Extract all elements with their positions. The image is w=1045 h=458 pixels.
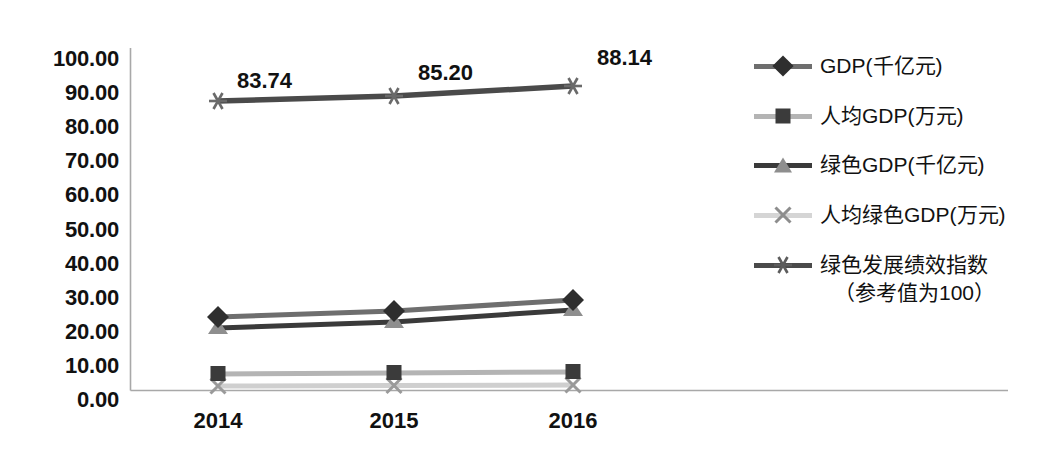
- triangle-marker-icon: [774, 158, 792, 173]
- legend-label-line1: 绿色发展绩效指数: [820, 253, 988, 276]
- square-marker-icon: [776, 108, 791, 123]
- diamond-marker-icon: [772, 55, 793, 76]
- data-label-index-2016: 88.14: [597, 47, 652, 69]
- data-label-index-2014: 83.74: [237, 70, 292, 92]
- legend-key-green-development-index: [752, 252, 814, 278]
- x-axis-tick-2015: 2015: [370, 410, 419, 432]
- legend-label-line2: （参考值为100）: [820, 279, 995, 307]
- legend-item-per-capita-green-gdp[interactable]: 人均绿色GDP(万元): [752, 201, 1037, 229]
- legend-key-per-capita-gdp: [752, 103, 814, 129]
- legend-item-green-gdp[interactable]: 绿色GDP(千亿元): [752, 151, 1037, 179]
- legend-item-gdp[interactable]: GDP(千亿元): [752, 52, 1037, 80]
- chart-legend: GDP(千亿元) 人均GDP(万元) 绿色GDP(千亿元): [752, 52, 1037, 328]
- x-marker-icon: [772, 204, 794, 226]
- series-line-per-capita-gdp: [211, 364, 581, 381]
- asterisk-marker-icon: [771, 253, 795, 277]
- x-axis-tick-2016: 2016: [549, 410, 598, 432]
- chart-container: 100.00 90.00 80.00 70.00 60.00 50.00 40.…: [0, 0, 1045, 458]
- legend-label-per-capita-gdp: 人均GDP(万元): [820, 102, 964, 130]
- legend-item-per-capita-gdp[interactable]: 人均GDP(万元): [752, 102, 1037, 130]
- x-axis-tick-2014: 2014: [194, 410, 243, 432]
- legend-key-per-capita-green-gdp: [752, 202, 814, 228]
- legend-key-gdp: [752, 53, 814, 79]
- legend-label-gdp: GDP(千亿元): [820, 52, 943, 80]
- legend-label-green-development-index: 绿色发展绩效指数 （参考值为100）: [820, 251, 995, 306]
- legend-label-green-gdp: 绿色GDP(千亿元): [820, 151, 985, 179]
- legend-key-green-gdp: [752, 152, 814, 178]
- legend-label-per-capita-green-gdp: 人均绿色GDP(万元): [820, 201, 1006, 229]
- data-label-index-2015: 85.20: [418, 62, 473, 84]
- legend-item-green-development-index[interactable]: 绿色发展绩效指数 （参考值为100）: [752, 251, 1037, 306]
